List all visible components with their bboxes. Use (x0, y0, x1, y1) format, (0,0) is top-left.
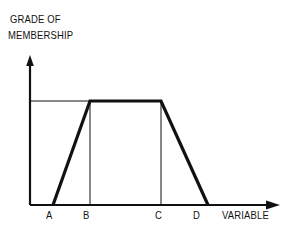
x-axis-label: VARIABLE (222, 209, 269, 222)
x-tick-label-b: B (83, 209, 89, 222)
y-axis-arrow-icon (26, 55, 34, 66)
membership-function-figure: GRADE OF MEMBERSHIP A B C D VARIABLE (0, 0, 290, 250)
membership-function-curve (53, 101, 208, 205)
x-tick-label-a: A (46, 209, 52, 222)
x-tick-label-d: D (193, 209, 200, 222)
x-tick-label-c: C (155, 209, 162, 222)
